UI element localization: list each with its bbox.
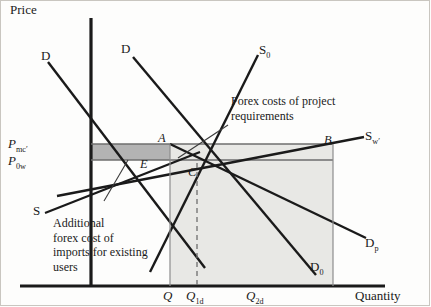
- annotation-additional-forex: Additional forex cost of imports for exi…: [53, 216, 148, 275]
- quantity-tick-q2d-sub: 2d: [255, 297, 263, 306]
- quantity-tick-q2d: Q2d: [246, 288, 264, 306]
- curve-label-demand-p-sub: p: [374, 244, 378, 253]
- curve-label-supply-domestic-sub: 0: [266, 51, 270, 60]
- y-axis-label: Price: [10, 2, 37, 17]
- annotation-additional-forex-line-2: forex cost of: [53, 231, 148, 246]
- curve-label-supply-low-base: S: [33, 203, 40, 218]
- annotation-forex-project-line-1: Forex costs of project: [231, 94, 335, 109]
- curve-label-demand-right: D: [121, 41, 130, 59]
- curve-label-demand-0-base: D: [310, 259, 319, 274]
- quantity-tick-q-base: Q: [163, 288, 172, 303]
- curve-label-supply-world: Sw′: [365, 128, 380, 146]
- curve-label-supply-domestic: S0: [259, 42, 270, 60]
- quantity-tick-q: Q: [163, 288, 172, 306]
- annotation-additional-forex-line-3: imports for existing: [53, 245, 148, 260]
- point-label-b: B: [324, 133, 332, 148]
- price-tick-p-mc: Pmc′: [8, 136, 28, 154]
- leader-additional-forex: [104, 160, 128, 201]
- curve-label-supply-low: S: [33, 203, 40, 221]
- price-tick-p-0w-sub: 0w: [16, 162, 26, 171]
- annotation-forex-project: Forex costs of project requirements: [231, 94, 335, 123]
- annotation-forex-project-line-2: requirements: [231, 109, 335, 124]
- curve-label-demand-right-base: D: [121, 41, 130, 56]
- x-axis-label: Quantity: [355, 288, 401, 303]
- price-tick-p-mc-base: P: [8, 136, 16, 151]
- curve-label-demand-left: D: [41, 48, 50, 66]
- quantity-tick-q1d-base: Q: [186, 288, 195, 303]
- price-tick-p-0w: P0w: [8, 153, 26, 171]
- point-label-e: E: [140, 157, 148, 172]
- annotation-additional-forex-line-4: users: [53, 260, 148, 275]
- curve-label-demand-p: Dp: [365, 235, 378, 253]
- curve-label-demand-left-base: D: [41, 48, 50, 63]
- point-label-a: A: [158, 131, 166, 146]
- price-tick-p-0w-base: P: [8, 153, 16, 168]
- quantity-tick-q2d-base: Q: [246, 288, 255, 303]
- forex-cost-band: [91, 144, 170, 160]
- annotation-additional-forex-line-1: Additional: [53, 216, 148, 231]
- quantity-tick-q1d: Q1d: [186, 288, 204, 306]
- quantity-tick-q1d-sub: 1d: [195, 297, 203, 306]
- curve-label-supply-world-sub: w′: [372, 137, 380, 146]
- economics-supply-demand-figure: Price Quantity Pmc′ P0w Q Q1d Q2d D D S0…: [0, 0, 431, 307]
- curve-label-demand-0-sub: 0: [319, 268, 323, 277]
- point-label-c: C: [188, 165, 196, 180]
- curve-label-demand-p-base: D: [365, 235, 374, 250]
- curve-label-demand-0: D0: [310, 259, 323, 277]
